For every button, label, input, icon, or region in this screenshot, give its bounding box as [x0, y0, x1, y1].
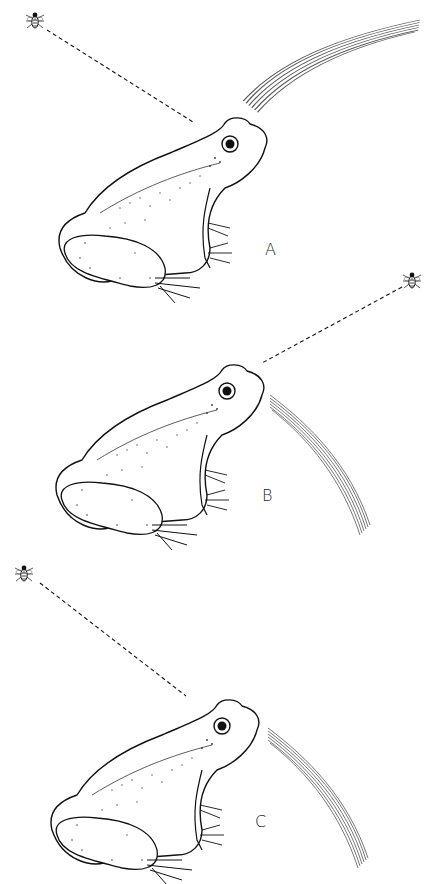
grass-blade [270, 395, 370, 535]
sight-line [47, 30, 193, 122]
panel-label-a: A [265, 240, 276, 259]
panel-label-c: C [255, 812, 266, 831]
panel-a [26, 0, 420, 303]
frog-illustration [59, 118, 267, 303]
fly-icon [15, 566, 33, 581]
panel-label-b: B [262, 486, 272, 505]
grass-blade [242, 0, 420, 137]
fly-icon [403, 273, 421, 288]
panel-b [56, 273, 421, 550]
grass-blade [268, 728, 368, 868]
sight-line [262, 287, 402, 363]
fly-icon [26, 13, 44, 28]
frog-illustration [51, 700, 259, 884]
frog-fly-diagram [0, 0, 430, 884]
panel-c [15, 566, 368, 884]
frog-illustration [56, 365, 264, 550]
sight-line [40, 583, 186, 696]
